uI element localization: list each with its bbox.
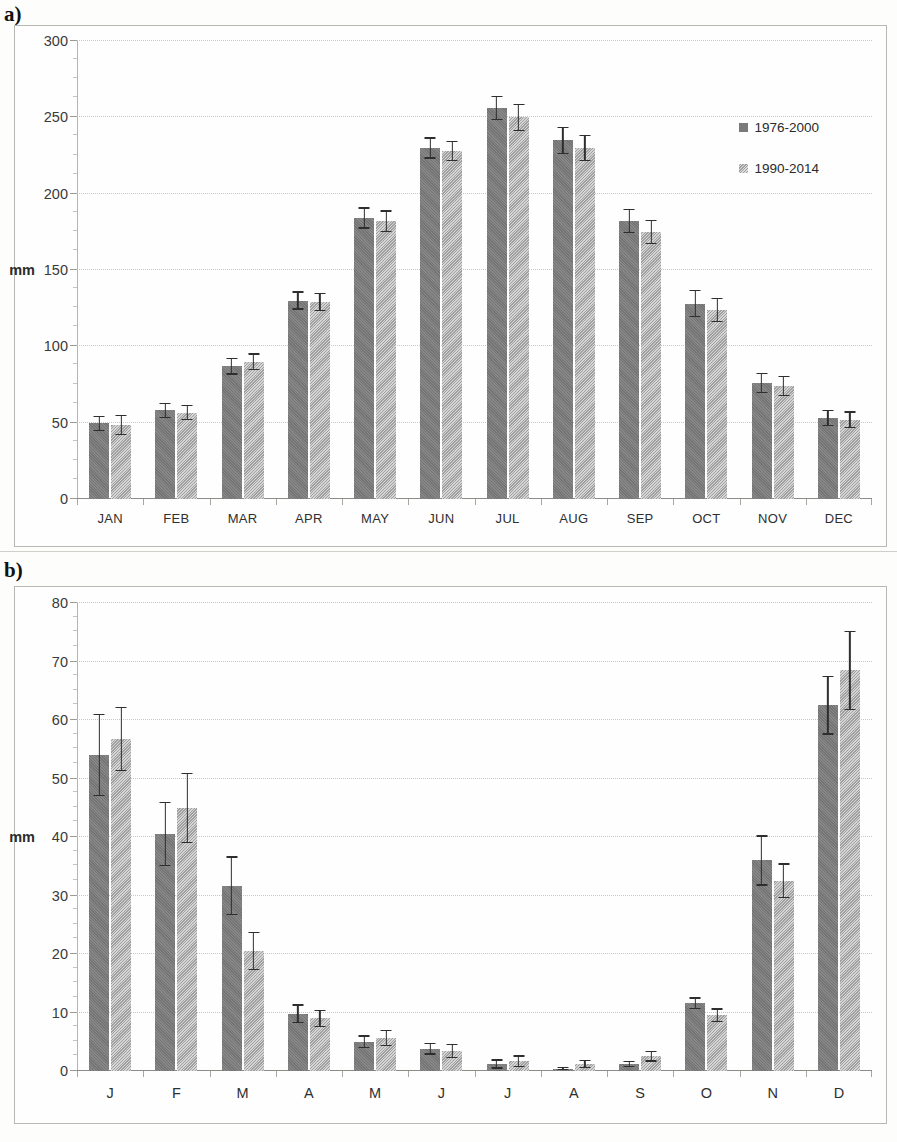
bar-DEC-11-series1[interactable]: [818, 41, 838, 499]
error-bar: [314, 293, 325, 311]
error-bar-cap-top: [359, 207, 370, 208]
bar-J-6-series1[interactable]: [487, 603, 507, 1071]
error-bar-cap-bottom: [491, 119, 502, 120]
error-bar: [822, 410, 833, 427]
x-tick-label-N-10: N: [740, 1085, 806, 1101]
error-bar-stem: [650, 220, 651, 244]
bar-JUL-6-series2[interactable]: [509, 41, 529, 499]
bar-A-3-series2[interactable]: [310, 603, 330, 1071]
error-bar: [756, 835, 767, 885]
bar-rect: [553, 140, 573, 499]
bar-JUL-6-series1[interactable]: [487, 41, 507, 499]
bar-M-4-series1[interactable]: [354, 603, 374, 1071]
bar-J-6-series2[interactable]: [509, 603, 529, 1071]
bar-D-11-series2[interactable]: [840, 603, 860, 1071]
bar-JAN-0-series1[interactable]: [89, 41, 109, 499]
error-bar-stem: [98, 416, 99, 431]
bar-A-7-series2[interactable]: [575, 603, 595, 1071]
x-tick-label-J-6: J: [475, 1085, 541, 1101]
error-bar-cap-top: [756, 835, 767, 836]
error-bar-cap-top: [712, 298, 723, 299]
error-bar: [624, 209, 635, 233]
error-bar-stem: [165, 802, 166, 866]
bar-N-10-series2[interactable]: [774, 603, 794, 1071]
error-bar-stem: [385, 210, 386, 231]
bar-APR-3-series2[interactable]: [310, 41, 330, 499]
bar-M-2-series2[interactable]: [244, 603, 264, 1071]
x-tick-mark: [607, 499, 608, 505]
error-bar-cap-top: [226, 856, 237, 857]
error-bar-stem: [430, 137, 431, 158]
bar-A-7-series1[interactable]: [553, 603, 573, 1071]
panel-divider: [0, 551, 897, 552]
error-bar: [182, 405, 193, 420]
bar-F-1-series1[interactable]: [155, 603, 175, 1071]
y-tick-label-40: 40: [52, 829, 68, 845]
bar-O-9-series1[interactable]: [685, 603, 705, 1071]
bar-rect: [707, 310, 727, 499]
error-bar-stem: [297, 1004, 298, 1023]
panel-b: b) 010203040mm50607080 JFMAMJJASOND 1976…: [0, 556, 897, 1142]
bar-MAR-2-series2[interactable]: [244, 41, 264, 499]
bar-JUN-5-series1[interactable]: [420, 41, 440, 499]
bar-MAR-2-series1[interactable]: [222, 41, 242, 499]
error-bar: [513, 104, 524, 131]
bar-FEB-1-series2[interactable]: [177, 41, 197, 499]
y-tick-label-150: 150: [44, 262, 68, 278]
error-bar-cap-top: [690, 997, 701, 998]
bar-JUN-5-series2[interactable]: [442, 41, 462, 499]
bar-D-11-series1[interactable]: [818, 603, 838, 1071]
bar-MAY-4-series1[interactable]: [354, 41, 374, 499]
error-bar: [624, 1061, 635, 1067]
bar-OCT-9-series1[interactable]: [685, 41, 705, 499]
bar-MAY-4-series2[interactable]: [376, 41, 396, 499]
bar-F-1-series2[interactable]: [177, 603, 197, 1071]
bar-DEC-11-series2[interactable]: [840, 41, 860, 499]
y-tick-mark-60: [70, 719, 77, 720]
y-tick-mark-20: [70, 953, 77, 954]
bar-rect: [442, 151, 462, 499]
x-tick-mark: [408, 499, 409, 505]
bar-AUG-7-series2[interactable]: [575, 41, 595, 499]
error-bar-cap-top: [712, 1008, 723, 1009]
bar-SEP-8-series1[interactable]: [619, 41, 639, 499]
error-bar: [491, 1059, 502, 1068]
error-bar-cap-bottom: [425, 157, 436, 158]
bar-S-8-series1[interactable]: [619, 603, 639, 1071]
bar-J-5-series1[interactable]: [420, 603, 440, 1071]
error-bar-stem: [120, 707, 121, 771]
bar-JAN-0-series2[interactable]: [111, 41, 131, 499]
error-bar-cap-top: [579, 1060, 590, 1061]
bar-M-2-series1[interactable]: [222, 603, 242, 1071]
bar-J-5-series2[interactable]: [442, 603, 462, 1071]
bar-S-8-series2[interactable]: [641, 603, 661, 1071]
bar-NOV-10-series1[interactable]: [752, 41, 772, 499]
bar-rect: [177, 413, 197, 499]
y-tick-label-100: 100: [44, 338, 68, 354]
bar-OCT-9-series2[interactable]: [707, 41, 727, 499]
error-bar-cap-bottom: [248, 969, 259, 970]
error-bar-cap-bottom: [381, 231, 392, 232]
error-bar: [94, 416, 105, 431]
bar-A-3-series1[interactable]: [288, 603, 308, 1071]
error-bar-cap-bottom: [844, 427, 855, 428]
legend-entry-series1: 1976-2000: [739, 120, 819, 135]
y-axis-unit-label: mm: [9, 829, 35, 845]
bar-AUG-7-series1[interactable]: [553, 41, 573, 499]
bar-J-0-series2[interactable]: [111, 603, 131, 1071]
bar-J-0-series1[interactable]: [89, 603, 109, 1071]
error-bar: [579, 1060, 590, 1068]
panel-a-axes: 050100150mm200250300 JANFEBMARAPRMAYJUNJ…: [77, 41, 872, 499]
bar-FEB-1-series1[interactable]: [155, 41, 175, 499]
error-bar-cap-top: [425, 1043, 436, 1044]
bar-NOV-10-series2[interactable]: [774, 41, 794, 499]
bar-group-NOV-10: [740, 41, 806, 499]
bar-M-4-series2[interactable]: [376, 603, 396, 1071]
bar-APR-3-series1[interactable]: [288, 41, 308, 499]
bar-rect: [89, 423, 109, 499]
error-bar-cap-top: [822, 410, 833, 411]
bar-SEP-8-series2[interactable]: [641, 41, 661, 499]
bar-O-9-series2[interactable]: [707, 603, 727, 1071]
error-bar-cap-top: [248, 932, 259, 933]
bar-N-10-series1[interactable]: [752, 603, 772, 1071]
